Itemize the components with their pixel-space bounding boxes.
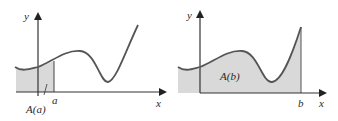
x-axis-label: x bbox=[318, 97, 324, 109]
shaded-area-a bbox=[16, 61, 54, 92]
area-label-b: A(b) bbox=[219, 70, 240, 83]
right-panel: y x b A(b) bbox=[178, 9, 325, 109]
y-axis-label: y bbox=[186, 9, 192, 21]
figure: y x a A(a) y x b A(b) bbox=[0, 0, 338, 121]
left-panel: y x a A(a) bbox=[15, 10, 165, 116]
x-axis-label: x bbox=[155, 97, 161, 109]
b-label: b bbox=[298, 97, 304, 109]
y-axis-label: y bbox=[23, 10, 29, 22]
shaded-area-b bbox=[178, 27, 301, 93]
a-label: a bbox=[52, 94, 58, 106]
area-label-a: A(a) bbox=[25, 103, 46, 116]
